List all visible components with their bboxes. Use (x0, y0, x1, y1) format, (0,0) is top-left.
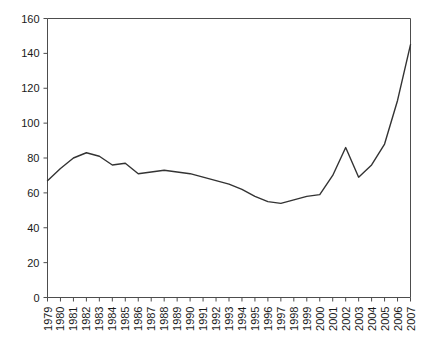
x-axis-tick-label: 1986 (132, 307, 144, 331)
x-axis-tick-label: 1997 (275, 307, 287, 331)
y-axis-tick-label: 60 (27, 187, 39, 199)
y-axis-tick-label: 100 (21, 117, 39, 129)
x-axis-tick-label: 2005 (379, 307, 391, 331)
x-axis-tick-label: 1990 (184, 307, 196, 331)
line-chart: 020406080100120140160 197919801981198219… (0, 0, 424, 344)
x-axis-tick-label: 1988 (158, 307, 170, 331)
x-axis-tick-label: 2001 (327, 307, 339, 331)
x-axis-tick-label: 2004 (366, 307, 378, 331)
x-axis-tick-label: 2003 (353, 307, 365, 331)
y-axis-tick-label: 160 (21, 13, 39, 25)
x-axis-tick-label: 1980 (54, 307, 66, 331)
x-axis-tick-label: 1991 (197, 307, 209, 331)
y-axis-tick-label: 0 (33, 292, 39, 304)
series-line-0 (48, 45, 411, 204)
x-axis-tick-label: 1994 (236, 307, 248, 331)
x-axis-tick-label: 2000 (314, 307, 326, 331)
x-axis-tick-label: 1987 (145, 307, 157, 331)
x-axis-tick-label: 1989 (171, 307, 183, 331)
x-axis: 1979198019811982198319841985198619871988… (42, 298, 417, 331)
x-axis-tick-label: 1984 (106, 307, 118, 331)
y-axis-tick-label: 40 (27, 222, 39, 234)
y-axis: 020406080100120140160 (21, 13, 47, 304)
y-axis-tick-label: 140 (21, 47, 39, 59)
x-axis-tick-label: 2006 (392, 307, 404, 331)
x-axis-tick-label: 2002 (340, 307, 352, 331)
x-axis-tick-label: 1996 (262, 307, 274, 331)
x-axis-tick-label: 1998 (288, 307, 300, 331)
y-axis-tick-label: 120 (21, 82, 39, 94)
x-axis-tick-label: 1993 (223, 307, 235, 331)
x-axis-tick-label: 1992 (210, 307, 222, 331)
data-series-group (48, 45, 411, 204)
x-axis-tick-label: 1979 (42, 307, 54, 331)
x-axis-tick-label: 1983 (93, 307, 105, 331)
x-axis-tick-label: 1999 (301, 307, 313, 331)
x-axis-tick-label: 1981 (67, 307, 79, 331)
x-axis-tick-label: 2007 (405, 307, 417, 331)
y-axis-tick-label: 20 (27, 257, 39, 269)
chart-canvas: 020406080100120140160 197919801981198219… (0, 0, 424, 344)
x-axis-tick-label: 1982 (80, 307, 92, 331)
x-axis-tick-label: 1985 (119, 307, 131, 331)
x-axis-tick-label: 1995 (249, 307, 261, 331)
y-axis-tick-label: 80 (27, 152, 39, 164)
